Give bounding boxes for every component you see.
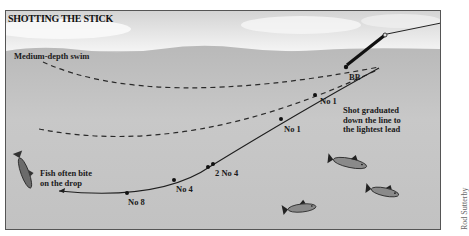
shot-no8: [125, 191, 129, 195]
label-medium-depth-swim: Medium-depth swim: [14, 52, 89, 62]
credit-text: Rod Sutterby: [460, 188, 469, 230]
shot-bb: [344, 65, 348, 69]
shot-note-line: the lightest lead: [343, 125, 401, 135]
label-2-no4: 2 No 4: [215, 169, 238, 179]
label-no1-upper: No 1: [320, 97, 337, 107]
shot-2no4-b: [206, 165, 210, 169]
label-bb: BB: [349, 73, 360, 83]
photo-credit: Rod Sutterby: [450, 178, 462, 230]
label-fish-note: Fish often bite on the drop: [40, 169, 92, 188]
label-shot-note: Shot graduated down the line to the ligh…: [343, 106, 401, 135]
water: [6, 46, 440, 229]
label-no4: No 4: [176, 185, 193, 195]
shot-no1-lower: [279, 117, 283, 121]
diagram-title: SHOTTING THE STICK: [8, 13, 113, 24]
label-no1-lower: No 1: [284, 125, 301, 135]
label-no8: No 8: [128, 198, 145, 208]
shot-no1-upper: [313, 93, 317, 97]
shot-2no4-a: [211, 162, 215, 166]
shot-no4: [172, 178, 176, 182]
fish-note-line: on the drop: [40, 179, 92, 189]
